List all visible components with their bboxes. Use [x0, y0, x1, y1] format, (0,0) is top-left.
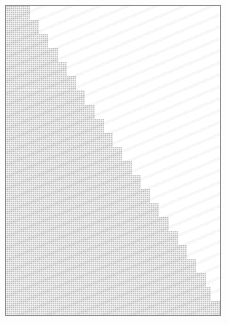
staircase-step — [6, 90, 85, 105]
staircase-step — [6, 217, 169, 231]
staircase-step — [6, 273, 206, 287]
staircase-step — [6, 175, 141, 189]
staircase-step — [6, 203, 159, 217]
plot-area — [6, 6, 220, 315]
staircase-step — [6, 133, 113, 147]
staircase-step — [6, 231, 178, 245]
plot-frame — [5, 5, 221, 316]
staircase-step — [6, 62, 67, 76]
screenshot-canvas — [0, 0, 228, 325]
staircase-step — [6, 20, 39, 34]
staircase-step — [6, 76, 76, 90]
staircase-step — [6, 105, 95, 119]
staircase-step — [6, 245, 187, 259]
staircase-step — [6, 48, 58, 62]
staircase-step — [6, 259, 196, 273]
staircase-step — [6, 119, 104, 133]
staircase-step — [6, 287, 211, 301]
staircase-step — [6, 301, 220, 315]
staircase-step — [6, 34, 48, 48]
staircase-step — [6, 161, 132, 175]
staircase-step — [6, 147, 122, 161]
staircase-step — [6, 6, 30, 20]
staircase-step — [6, 189, 150, 203]
